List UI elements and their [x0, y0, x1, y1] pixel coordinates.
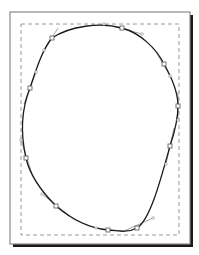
page: [10, 12, 190, 244]
node[interactable]: [50, 36, 54, 40]
node[interactable]: [106, 228, 110, 232]
drawing-canvas[interactable]: [0, 0, 199, 255]
node[interactable]: [135, 226, 139, 230]
node[interactable]: [24, 156, 28, 160]
node[interactable]: [162, 62, 166, 66]
node[interactable]: [176, 104, 180, 108]
node[interactable]: [28, 86, 32, 90]
node[interactable]: [54, 204, 58, 208]
node[interactable]: [168, 144, 172, 148]
node[interactable]: [120, 26, 124, 30]
